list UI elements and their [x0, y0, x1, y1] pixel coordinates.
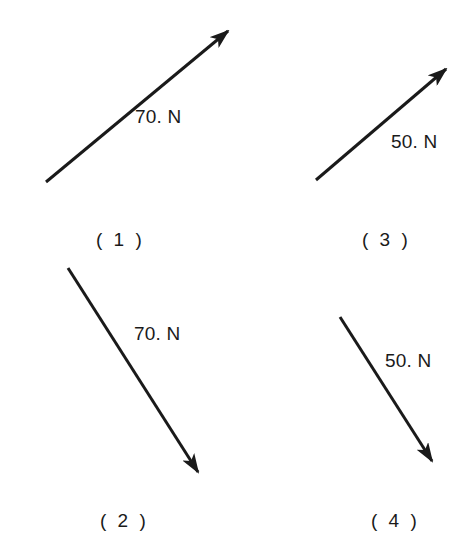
- vector-2-caption: ( 2 ): [100, 510, 149, 532]
- vector-4-magnitude-label: 50. N: [385, 350, 431, 372]
- vector-1-magnitude-label: 70. N: [135, 106, 181, 128]
- vector-arrow-4: [340, 317, 432, 461]
- vector-2-magnitude-label: 70. N: [134, 323, 180, 345]
- vector-arrow-2: [68, 268, 198, 472]
- force-vectors-diagram: [0, 0, 472, 541]
- vector-3-magnitude-label: 50. N: [391, 131, 437, 153]
- vector-arrow-3: [316, 69, 446, 180]
- vector-3-caption: ( 3 ): [362, 229, 411, 251]
- vector-4-caption: ( 4 ): [371, 510, 420, 532]
- vector-1-caption: ( 1 ): [96, 229, 145, 251]
